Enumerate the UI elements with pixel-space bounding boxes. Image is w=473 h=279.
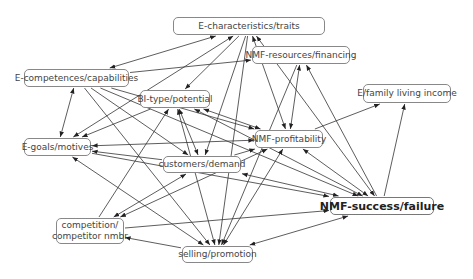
edge-success-selling: [250, 216, 348, 245]
node-label: NMF-success/failure: [320, 201, 444, 212]
node-competences: E-competences/capabilities: [24, 69, 129, 87]
edge-bitype-success: [194, 109, 362, 196]
edge-bitype-goals: [82, 109, 151, 137]
edge-customers-success: [242, 174, 339, 196]
node-label: customers/demand: [158, 159, 245, 170]
node-customers: customers/demand: [163, 156, 241, 173]
node-bitype: BI-type/potential: [140, 90, 210, 108]
edge-bitype-profitability: [204, 109, 261, 129]
node-profitability: NMF-profitability: [255, 130, 323, 148]
node-label: E-goals/motives: [22, 142, 94, 153]
node-label: E-characteristics/traits: [198, 21, 299, 32]
edge-resources-profitability: [290, 65, 299, 129]
node-income: E/family living income: [363, 84, 451, 103]
edge-resources-selling: [222, 65, 297, 245]
node-label: competition/ competitor nmbr: [52, 220, 128, 242]
node-label: NMF-resources/financing: [245, 50, 356, 61]
edge-bitype-selling: [178, 109, 215, 245]
node-goals: E-goals/motives: [24, 138, 91, 156]
edge-competences-goals: [60, 88, 73, 137]
node-label: E-competences/capabilities: [15, 73, 139, 84]
edge-selling-competition: [125, 238, 181, 248]
edge-traits-competences: [110, 36, 216, 68]
node-label: NMF-profitability: [252, 134, 326, 145]
node-success: NMF-success/failure: [330, 197, 434, 215]
edge-success-income: [384, 104, 405, 196]
edge-customers-competition: [114, 174, 186, 217]
node-competition: competition/ competitor nmbr: [56, 218, 124, 244]
edge-profitability-income: [315, 104, 380, 129]
node-resources: NMF-resources/financing: [252, 46, 350, 64]
node-label: BI-type/potential: [137, 94, 212, 105]
node-label: selling/promotion: [178, 249, 256, 260]
node-selling: selling/promotion: [182, 246, 253, 263]
node-label: E/family living income: [357, 88, 456, 99]
node-traits: E-characteristics/traits: [173, 17, 325, 35]
edge-profitability-success: [303, 149, 368, 196]
edge-competences-resources: [130, 60, 251, 72]
edge-customers-profitability: [234, 149, 255, 155]
